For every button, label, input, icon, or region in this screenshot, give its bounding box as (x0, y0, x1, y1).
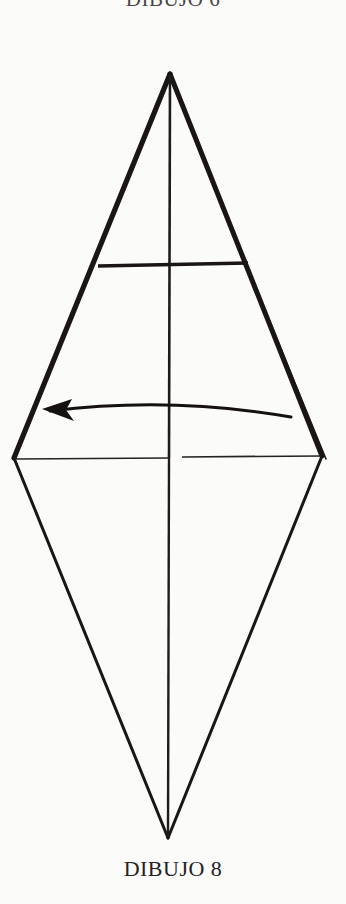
fold-arrow-shaft (50, 405, 291, 417)
caption-bottom: DIBUJO 8 (0, 856, 346, 882)
edge-upper-right-underlayer (171, 80, 326, 459)
center-crease-upper (169, 76, 170, 458)
edge-lower-right (168, 456, 322, 838)
figure-page: DIBUJO 6 DIBUJO 8 (0, 0, 346, 904)
center-crease-lower (168, 458, 169, 836)
edge-lower-left (14, 458, 168, 838)
crease-mid-horizontal-right (182, 456, 321, 457)
crease-upper-horizontal (98, 263, 248, 266)
origami-kite-diagram (0, 0, 346, 904)
crease-mid-horizontal-left (15, 458, 169, 459)
